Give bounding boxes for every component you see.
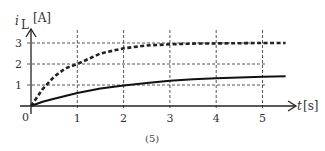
y-axis-label-sub: L xyxy=(21,18,29,32)
y-axis-label: i xyxy=(15,14,19,28)
series-solid-line xyxy=(31,76,286,106)
y-axis-unit: [A] xyxy=(33,11,51,25)
x-tick-label: 5 xyxy=(259,112,266,125)
x-axis-label: t xyxy=(297,99,302,113)
y-tick-label: 3 xyxy=(15,37,22,50)
x-tick-label: 3 xyxy=(166,112,173,125)
origin-label: 0 xyxy=(22,111,29,124)
data-series xyxy=(31,43,286,106)
figure-caption: (5) xyxy=(145,133,159,144)
x-tick-label: 4 xyxy=(213,112,220,125)
x-tick-label: 1 xyxy=(74,112,81,125)
x-axis-unit: [s] xyxy=(303,99,319,113)
y-tick-label: 1 xyxy=(15,79,22,92)
y-tick-label: 2 xyxy=(15,58,22,71)
axis-labels: i L [A] t [s] 0 xyxy=(15,11,319,124)
x-tick-label: 2 xyxy=(120,112,127,125)
chart: 12345123 i L [A] t [s] 0 (5) xyxy=(0,0,325,151)
series-dashed-line xyxy=(31,43,286,106)
tick-labels: 12345123 xyxy=(15,37,266,125)
